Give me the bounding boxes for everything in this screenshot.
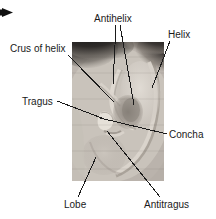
corner-arrow-marker <box>0 8 13 17</box>
label-tragus: Tragus <box>22 96 53 107</box>
label-lobe: Lobe <box>64 199 86 210</box>
label-antihelix: Antihelix <box>94 13 132 24</box>
label-helix: Helix <box>168 29 190 40</box>
label-antitragus: Antitragus <box>144 199 189 210</box>
label-crus-of-helix: Crus of helix <box>10 43 66 54</box>
label-concha: Concha <box>169 129 203 140</box>
ear-photograph <box>58 28 180 192</box>
ear-anatomy-figure: Antihelix Helix Crus of helix Tragus Con… <box>0 0 216 219</box>
